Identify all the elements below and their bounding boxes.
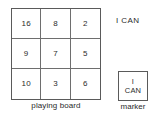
playing-board-grid: 16 8 2 9 7 5 10 3 6 <box>11 8 101 100</box>
ican-legend-label: I CAN <box>116 17 139 26</box>
playing-board-caption: playing board <box>11 102 101 111</box>
board-cell[interactable]: 9 <box>12 39 41 69</box>
marker-text-line-1: I <box>132 77 134 86</box>
marker-text-line-2: CAN <box>125 86 141 95</box>
board-cell[interactable]: 8 <box>41 9 70 39</box>
board-cell[interactable]: 16 <box>12 9 41 39</box>
board-cell[interactable]: 10 <box>12 69 41 99</box>
board-cell[interactable]: 2 <box>71 9 100 39</box>
marker-caption: marker <box>114 103 152 112</box>
board-cell[interactable]: 3 <box>41 69 70 99</box>
board-cell[interactable]: 5 <box>71 39 100 69</box>
board-cell[interactable]: 7 <box>41 39 70 69</box>
figure-canvas: 16 8 2 9 7 5 10 3 6 playing board I CAN … <box>0 0 158 122</box>
marker-tile[interactable]: I CAN <box>118 71 148 101</box>
board-cell[interactable]: 6 <box>71 69 100 99</box>
